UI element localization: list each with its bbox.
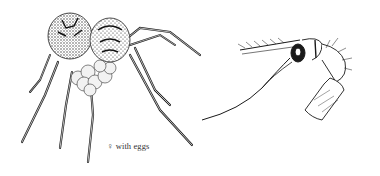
spider-illustration bbox=[0, 0, 380, 176]
illustration: ♀ with eggs bbox=[0, 0, 380, 176]
egg-sac bbox=[71, 60, 116, 96]
figure-caption: ♀ with eggs bbox=[107, 141, 149, 151]
cephalothorax bbox=[48, 13, 92, 59]
abdomen bbox=[90, 18, 130, 62]
pedipalp-detail bbox=[202, 38, 352, 120]
